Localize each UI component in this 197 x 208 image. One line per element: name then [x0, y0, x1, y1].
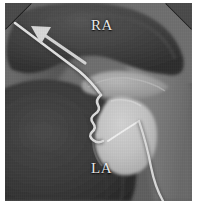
scan-canvas: [5, 3, 192, 201]
scan-image-frame: RA LA: [5, 3, 192, 201]
balloon-device: [95, 97, 157, 176]
echo-figure: RA LA: [0, 0, 197, 208]
